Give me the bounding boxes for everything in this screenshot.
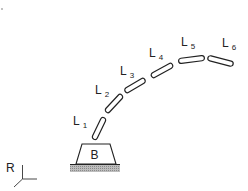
link-3: [124, 77, 146, 93]
base-label: B: [91, 148, 99, 162]
frame-axis-x: [14, 179, 23, 187]
links: [91, 55, 233, 140]
reference-frame-label: R: [6, 161, 15, 175]
label-l6: L6: [222, 36, 237, 52]
label-l3: L3: [120, 64, 135, 80]
label-l1: L1: [73, 114, 88, 130]
link-4: [150, 62, 174, 78]
label-l5: L5: [181, 35, 196, 51]
manipulator-diagram: L1 L2 L3 L4 L5 L6 B R: [0, 0, 248, 191]
stray-dot: [1, 8, 2, 9]
link-labels: L1 L2 L3 L4 L5 L6: [73, 35, 237, 130]
base: B: [70, 144, 120, 172]
reference-frame: R: [6, 161, 37, 187]
link-5: [178, 55, 204, 64]
link-1: [91, 117, 106, 141]
label-l2: L2: [95, 83, 110, 99]
label-l4: L4: [149, 46, 164, 62]
link-6: [207, 55, 233, 67]
ground-hatch: [70, 164, 120, 172]
